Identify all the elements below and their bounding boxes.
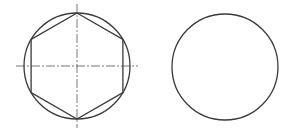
- side-view-circle: [172, 14, 278, 120]
- technical-drawing: [0, 0, 293, 138]
- front-view-hexagon-in-circle: [16, 4, 138, 128]
- side-circle: [172, 14, 278, 120]
- drawing-canvas: [0, 0, 293, 138]
